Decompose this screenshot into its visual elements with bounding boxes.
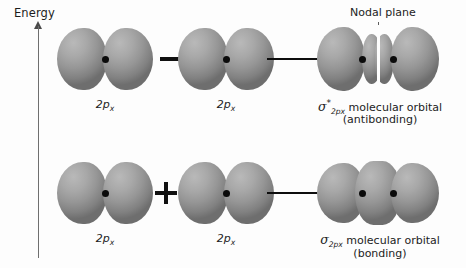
orbital-lobe-left (57, 28, 107, 90)
nucleus-dot-right (390, 56, 397, 63)
p-orbital-icon (178, 28, 274, 90)
p-orbital-icon (178, 162, 274, 224)
plus-vertical-bar (164, 182, 168, 204)
atomic-orbital-1-label: 2px (57, 98, 153, 113)
orbital-lobe-left (57, 162, 107, 224)
atomic-orbital-4-label: 2px (178, 232, 274, 247)
atomic-orbital-2-label: 2px (178, 98, 274, 113)
nodal-plane-gap (377, 25, 380, 93)
nucleus-dot-left (359, 56, 366, 63)
atomic-orbital-3-label: 2px (57, 232, 153, 247)
nucleus-dot (102, 190, 109, 197)
sigma-orbital-icon (317, 161, 439, 225)
orbital-lobe-right (103, 28, 153, 90)
orbital-lobe-right (103, 162, 153, 224)
p-orbital-icon (57, 162, 153, 224)
mo-lobe-right (391, 163, 439, 223)
sigma-star-orbital-icon (317, 27, 439, 91)
nucleus-dot-right (390, 190, 397, 197)
nucleus-dot (102, 56, 109, 63)
antibonding-row: 2px 2px Nodal plane (0, 0, 466, 134)
orbital-lobe-left (178, 28, 228, 90)
nucleus-dot-left (359, 190, 366, 197)
nucleus-dot (223, 190, 230, 197)
antibonding-orbital-note: (antibonding) (300, 113, 460, 126)
mo-lobe-outer-right (391, 27, 439, 91)
bonding-orbital-note: (bonding) (300, 247, 460, 260)
mo-lobe-outer-left (317, 27, 365, 91)
bonding-row: 2px 2px (0, 134, 466, 268)
p-orbital-icon (57, 28, 153, 90)
diagram-canvas: Energy 2px 2px (0, 0, 466, 268)
plus-operator-icon (155, 182, 177, 204)
nucleus-dot (223, 56, 230, 63)
orbital-lobe-left (178, 162, 228, 224)
nodal-plane-label: Nodal plane (350, 6, 416, 19)
